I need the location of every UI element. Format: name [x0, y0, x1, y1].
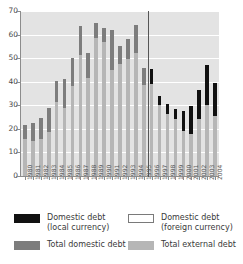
x-axis-tick	[175, 177, 176, 180]
bar-segment	[94, 23, 98, 38]
x-axis-labels: 1980198119821983198419851986198719881989…	[21, 180, 219, 208]
bar-1992	[118, 11, 122, 176]
bar-1993	[126, 11, 130, 176]
x-axis-tick	[104, 177, 105, 180]
x-axis-tick	[168, 177, 169, 180]
x-axis-tick	[88, 177, 89, 180]
x-axis-tick	[207, 177, 208, 180]
bar-2004	[213, 11, 217, 176]
debt-chart: 010203040506070 198019811982198319841985…	[0, 0, 243, 264]
x-axis-tick	[49, 177, 50, 180]
bar-1983	[47, 11, 51, 176]
bar-segment	[86, 53, 90, 78]
bar-2000	[182, 11, 186, 176]
legend-item: Total domestic debt	[14, 240, 126, 250]
bars-layer	[21, 11, 219, 176]
bar-2001	[189, 11, 193, 176]
bar-1982	[39, 11, 43, 176]
x-axis-tick	[33, 177, 34, 180]
bar-segment	[150, 69, 154, 84]
bar-segment	[166, 104, 170, 113]
bar-1989	[94, 11, 98, 176]
bar-segment	[39, 118, 43, 139]
bar-segment	[182, 111, 186, 131]
y-axis-tick	[16, 129, 20, 130]
legend-item: Domestic debt(local currency)	[14, 213, 109, 233]
x-axis-tick	[191, 177, 192, 180]
bar-1987	[79, 11, 83, 176]
bar-segment	[102, 28, 106, 42]
bar-1988	[86, 11, 90, 176]
bar-segment	[110, 30, 114, 70]
bar-segment	[197, 90, 201, 119]
bar-2002	[197, 11, 201, 176]
bar-1994	[134, 11, 138, 176]
bar-1981	[31, 11, 35, 176]
legend-label: Domestic debt(local currency)	[47, 213, 109, 233]
legend-swatch	[14, 214, 40, 223]
legend-item: Domestic debt(foreign currency)	[128, 213, 233, 233]
bar-2003	[205, 11, 209, 176]
x-axis-tick	[72, 177, 73, 180]
bar-1985	[63, 11, 67, 176]
bar-1995	[142, 11, 146, 176]
bar-segment	[150, 84, 154, 176]
x-axis-tick	[128, 177, 129, 180]
legend-label: Domestic debt(foreign currency)	[161, 213, 233, 233]
x-axis-tick	[41, 177, 42, 180]
bar-1996	[150, 11, 154, 176]
bar-segment	[213, 83, 217, 116]
bar-segment	[31, 123, 35, 141]
bar-1997	[158, 11, 162, 176]
y-axis-tick	[16, 105, 20, 106]
x-axis-tick	[25, 177, 26, 180]
bar-1980	[23, 11, 27, 176]
bar-segment	[118, 46, 122, 64]
y-axis-tick	[16, 58, 20, 59]
legend-swatch	[14, 241, 40, 250]
bar-segment	[126, 39, 130, 59]
x-axis-tick	[199, 177, 200, 180]
bar-segment	[142, 68, 146, 86]
bar-segment	[205, 65, 209, 105]
bar-segment	[110, 70, 114, 176]
bar-segment	[118, 64, 122, 176]
bar-segment	[47, 108, 51, 133]
legend-label: Total external debt	[161, 240, 236, 250]
x-axis-tick	[96, 177, 97, 180]
bar-1984	[55, 11, 59, 176]
bar-segment	[126, 59, 130, 176]
y-axis-tick	[16, 176, 20, 177]
bar-segment	[142, 85, 146, 176]
bar-segment	[23, 125, 27, 139]
x-axis-tick	[65, 177, 66, 180]
legend-item: Total external debt	[128, 240, 236, 250]
bar-segment	[86, 78, 90, 176]
bar-segment	[94, 38, 98, 176]
bar-segment	[71, 86, 75, 176]
y-axis-tick	[16, 152, 20, 153]
bar-1991	[110, 11, 114, 176]
y-axis-tick	[16, 35, 20, 36]
y-axis-tick	[16, 82, 20, 83]
bar-segment	[158, 96, 162, 105]
x-axis-tick	[152, 177, 153, 180]
x-axis-tick	[112, 177, 113, 180]
bar-segment	[102, 42, 106, 176]
period-divider-line	[148, 11, 149, 177]
y-axis: 010203040506070	[0, 0, 18, 177]
bar-segment	[174, 109, 178, 120]
x-axis-tick	[80, 177, 81, 180]
legend-swatch	[128, 214, 154, 223]
bar-1998	[166, 11, 170, 176]
x-axis-tick	[136, 177, 137, 180]
bar-segment	[79, 26, 83, 54]
x-axis-tick	[120, 177, 121, 180]
x-axis-tick	[183, 177, 184, 180]
chart-legend: Domestic debt(local currency)Domestic de…	[0, 213, 243, 261]
bar-1990	[102, 11, 106, 176]
x-axis-tick	[215, 177, 216, 180]
x-axis-tick	[57, 177, 58, 180]
bar-segment	[189, 106, 193, 133]
bar-segment	[63, 79, 67, 107]
